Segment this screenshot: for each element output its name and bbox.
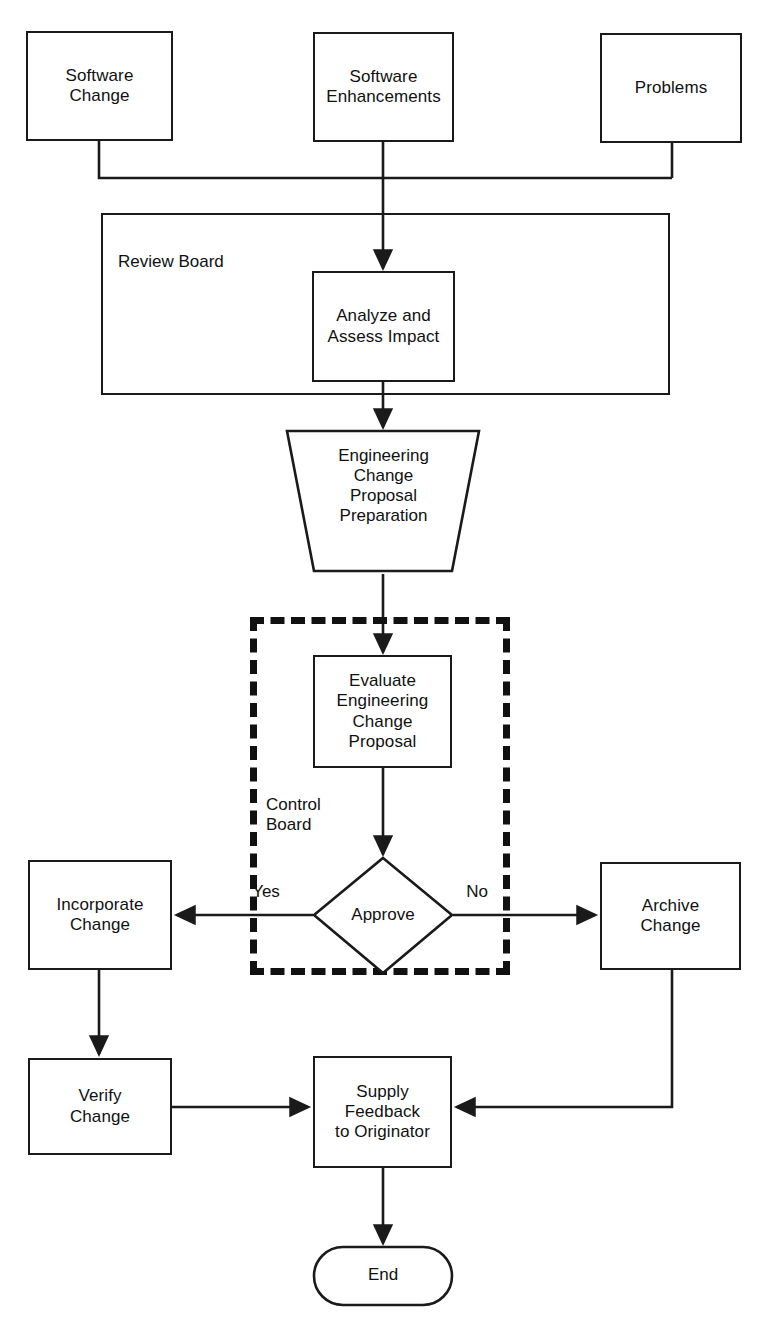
node-problems-label: Problems xyxy=(635,78,708,98)
edge-archive-to-supply-feedback xyxy=(457,970,672,1107)
control-board-label: Control Board xyxy=(266,795,376,835)
node-software-enhancements-label: Software Enhancements xyxy=(326,67,441,107)
node-incorporate-change[interactable]: Incorporate Change xyxy=(28,860,172,970)
node-archive-change[interactable]: Archive Change xyxy=(600,862,741,970)
node-verify-change-label: Verify Change xyxy=(70,1086,130,1126)
node-ecp-preparation-label: Engineering Change Proposal Preparation xyxy=(296,446,471,526)
node-evaluate-ecp[interactable]: Evaluate Engineering Change Proposal xyxy=(313,655,452,768)
edge-label-no: No xyxy=(455,882,499,902)
node-evaluate-ecp-label: Evaluate Engineering Change Proposal xyxy=(337,671,429,751)
node-problems[interactable]: Problems xyxy=(600,33,742,143)
node-software-change[interactable]: Software Change xyxy=(26,31,173,141)
node-supply-feedback[interactable]: Supply Feedback to Originator xyxy=(313,1056,452,1168)
node-end-terminator-label: End xyxy=(311,1265,455,1285)
node-approve-decision-label: Approve xyxy=(333,905,433,925)
edge-software-change-to-bus xyxy=(99,141,672,178)
review-board-label: Review Board xyxy=(118,252,298,272)
node-analyze-assess-impact-label: Analyze and Assess Impact xyxy=(328,306,440,346)
node-supply-feedback-label: Supply Feedback to Originator xyxy=(335,1082,430,1142)
edge-label-yes: Yes xyxy=(240,882,292,902)
node-incorporate-change-label: Incorporate Change xyxy=(56,895,143,935)
node-software-enhancements[interactable]: Software Enhancements xyxy=(313,32,454,142)
flowchart-canvas: Review Board Control Board Software Chan… xyxy=(0,0,763,1328)
node-analyze-assess-impact[interactable]: Analyze and Assess Impact xyxy=(312,271,455,382)
node-verify-change[interactable]: Verify Change xyxy=(28,1058,172,1155)
node-archive-change-label: Archive Change xyxy=(640,896,700,936)
node-software-change-label: Software Change xyxy=(66,66,134,106)
